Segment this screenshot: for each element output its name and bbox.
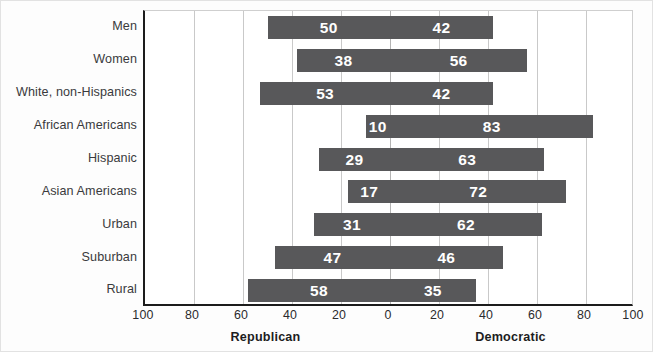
bar-row: 3162 [145,208,632,241]
bar-value-republican: 38 [297,49,390,72]
bar-value-democratic: 83 [390,115,593,138]
bar-value-republican: 47 [275,246,390,269]
bar-value-democratic: 42 [390,16,493,39]
x-tick-label: 100 [622,308,643,322]
category-axis-labels: MenWomenWhite, non-HispanicsAfrican Amer… [0,10,137,306]
x-tick-label: 80 [577,308,591,322]
x-tick-label: 40 [283,308,297,322]
bar-value-democratic: 62 [390,213,542,236]
bar-value-democratic: 35 [390,279,476,302]
axis-caption-republican: Republican [231,330,301,344]
bar-row: 4746 [145,241,632,274]
category-label: Asian Americans [0,174,137,207]
bar-row: 5342 [145,77,632,110]
bar-value-democratic: 42 [390,82,493,105]
category-label: White, non-Hispanics [0,76,137,109]
chart-figure: MenWomenWhite, non-HispanicsAfrican Amer… [0,0,653,352]
plot-area: 504238565342108329631772316247465835 [143,10,633,306]
bar-row: 2963 [145,143,632,176]
x-tick-label: 20 [332,308,346,322]
bar-row: 1083 [145,110,632,143]
category-label: Urban [0,207,137,240]
bar-row: 1772 [145,175,632,208]
bar-value-republican: 50 [268,16,391,39]
x-tick-label: 60 [528,308,542,322]
axis-caption-democratic: Democratic [475,330,546,344]
bar-row: 5042 [145,11,632,44]
bar-value-republican: 53 [260,82,390,105]
category-label: Suburban [0,240,137,273]
x-tick-label: 80 [185,308,199,322]
bar-value-republican: 10 [366,115,391,138]
category-label: African Americans [0,109,137,142]
category-label: Men [0,10,137,43]
bar-row: 3856 [145,44,632,77]
bar-value-democratic: 63 [390,148,544,171]
x-tick-label: 0 [384,308,391,322]
category-label: Hispanic [0,142,137,175]
bar-value-republican: 31 [314,213,390,236]
x-tick-label: 40 [479,308,493,322]
bar-value-democratic: 72 [390,180,566,203]
bar-value-democratic: 46 [390,246,503,269]
value-axis-ticks: 10080604020020406080100 [143,308,633,328]
x-tick-label: 100 [132,308,153,322]
bar-value-republican: 29 [319,148,390,171]
x-tick-label: 20 [430,308,444,322]
bar-value-republican: 17 [348,180,390,203]
bar-value-republican: 58 [248,279,390,302]
category-label: Rural [0,273,137,306]
x-tick-label: 60 [234,308,248,322]
bar-row: 5835 [145,274,632,307]
category-label: Women [0,43,137,76]
bar-value-democratic: 56 [390,49,527,72]
